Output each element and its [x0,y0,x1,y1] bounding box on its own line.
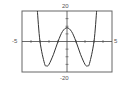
plot-canvas [0,0,121,85]
y-min-label: -20 [60,75,69,81]
y-max-label: 20 [62,3,69,9]
x-min-label: -5 [12,38,17,44]
x-max-label: 5 [114,38,117,44]
